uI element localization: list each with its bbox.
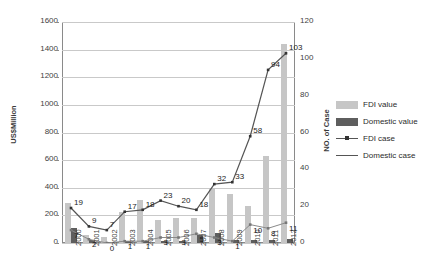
y-tick-label-right: 0 <box>300 237 330 246</box>
legend-label: Domestic case <box>363 151 415 160</box>
data-label: 7 <box>110 220 114 229</box>
tick-mark <box>56 243 59 244</box>
data-point-marker <box>249 135 252 138</box>
y-tick-label-left: 0 <box>28 237 58 246</box>
data-label: 10 <box>253 226 262 235</box>
data-point-marker <box>285 221 288 224</box>
data-label: 1 <box>235 242 239 251</box>
legend-label: Domestic value <box>363 117 418 126</box>
data-point-marker <box>231 181 234 184</box>
data-label: 17 <box>128 202 137 211</box>
legend-label: FDI case <box>363 134 395 143</box>
data-label: 20 <box>182 196 191 205</box>
data-point-marker <box>267 227 270 230</box>
y-tick-label-left: 1200 <box>28 71 58 80</box>
y-axis-right-ticks: 020406080100120 <box>300 22 332 243</box>
data-label: 3 <box>182 238 186 247</box>
data-label: 8 <box>271 229 275 238</box>
data-point-marker <box>159 236 162 239</box>
data-label: 32 <box>217 174 226 183</box>
tick-mark <box>56 188 59 189</box>
y-tick-label-left: 200 <box>28 209 58 218</box>
data-label: 23 <box>164 191 173 200</box>
tick-mark <box>56 105 59 106</box>
legend-swatch-icon <box>336 101 358 109</box>
data-point-marker <box>159 199 162 202</box>
data-label: 7 <box>74 231 78 240</box>
data-point-marker <box>195 233 198 236</box>
data-label: 9 <box>92 216 96 225</box>
data-label: 5 <box>199 235 203 244</box>
y-tick-label-left: 600 <box>28 154 58 163</box>
tick-mark <box>56 50 59 51</box>
chart-container: US$Million NO. of Case 02004006008001000… <box>0 0 439 280</box>
data-point-marker <box>213 236 216 239</box>
data-point-marker <box>106 242 109 243</box>
data-label: 3 <box>164 238 168 247</box>
data-label: 2 <box>92 240 96 249</box>
legend-item[interactable]: Domestic value <box>336 113 436 130</box>
data-label: 103 <box>289 43 302 52</box>
data-label: 1 <box>146 242 150 251</box>
y-tick-label-right: 120 <box>300 16 330 25</box>
y-tick-label-right: 60 <box>300 127 330 136</box>
legend-swatch-icon <box>336 118 358 126</box>
tick-mark <box>56 133 59 134</box>
data-point-marker <box>231 240 234 243</box>
legend-swatch-icon <box>336 152 358 160</box>
data-point-marker <box>195 209 198 212</box>
data-label: 58 <box>253 126 262 135</box>
data-point-marker <box>70 229 73 232</box>
data-label: 3 <box>217 238 221 247</box>
data-point-marker <box>267 69 270 72</box>
data-point-marker <box>249 223 252 226</box>
y-tick-label-right: 80 <box>300 90 330 99</box>
tick-mark <box>56 215 59 216</box>
data-point-marker <box>106 229 109 232</box>
data-label: 0 <box>110 244 114 253</box>
y-tick-label-left: 1000 <box>28 99 58 108</box>
data-point-marker <box>123 210 126 213</box>
y-tick-label-left: 400 <box>28 182 58 191</box>
x-axis-labels: 2000200120022003200420052006200720082009… <box>62 244 295 278</box>
tick-mark <box>56 77 59 78</box>
legend-label: FDI value <box>363 100 397 109</box>
chart-legend: FDI valueDomestic valueFDI caseDomestic … <box>336 96 436 164</box>
y-tick-label-left: 1400 <box>28 44 58 53</box>
data-point-marker <box>213 183 216 186</box>
data-point-marker <box>177 236 180 239</box>
data-label: 18 <box>199 200 208 209</box>
line-fdi-case <box>71 53 286 230</box>
data-point-marker <box>177 205 180 208</box>
data-point-marker <box>88 225 91 228</box>
y-tick-label-right: 40 <box>300 163 330 172</box>
legend-item[interactable]: FDI case <box>336 130 436 147</box>
data-point-marker <box>141 240 144 243</box>
y-axis-title-left: US$Million <box>9 90 18 160</box>
data-label: 1 <box>128 242 132 251</box>
legend-item[interactable]: Domestic case <box>336 147 436 164</box>
y-tick-label-left: 1600 <box>28 16 58 25</box>
y-axis-left-ticks: 02004006008001000120014001600 <box>26 22 58 243</box>
data-label: 18 <box>146 200 155 209</box>
y-tick-label-left: 800 <box>28 127 58 136</box>
data-label: 11 <box>289 224 297 233</box>
tick-mark <box>56 160 59 161</box>
data-label: 19 <box>74 198 83 207</box>
data-point-marker <box>123 240 126 243</box>
y-tick-label-right: 100 <box>300 53 330 62</box>
data-point-marker <box>70 207 73 210</box>
data-point-marker <box>141 209 144 212</box>
data-label: 33 <box>235 172 244 181</box>
tick-mark <box>56 22 59 23</box>
data-point-marker <box>285 52 288 55</box>
y-tick-label-right: 20 <box>300 200 330 209</box>
legend-item[interactable]: FDI value <box>336 96 436 113</box>
data-point-marker <box>88 238 91 241</box>
legend-swatch-icon <box>336 135 358 143</box>
data-label: 94 <box>271 60 280 69</box>
